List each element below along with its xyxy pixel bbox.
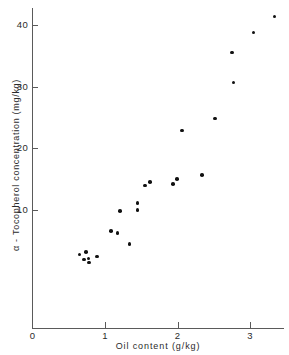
scatter-plot-figure: 10203040 0123 Oil content (g/kg) α - Toc… (0, 0, 289, 355)
data-point (109, 229, 113, 233)
data-point (136, 208, 140, 212)
data-point (171, 182, 175, 186)
data-point (87, 261, 91, 265)
data-point (78, 253, 82, 257)
data-point (116, 231, 120, 235)
data-point (213, 117, 217, 121)
data-point (128, 242, 132, 246)
data-point (252, 31, 256, 35)
data-point (95, 255, 99, 259)
data-point (136, 201, 140, 205)
y-axis-title: α - Tocopherol concentration (mg/kg) (11, 45, 21, 285)
data-point (84, 250, 88, 254)
data-point (230, 51, 234, 55)
data-point (82, 258, 86, 262)
data-point (148, 180, 152, 184)
data-point (200, 173, 204, 177)
x-axis-title: Oil content (g/kg) (32, 341, 284, 351)
data-point (175, 177, 179, 181)
data-point (118, 209, 122, 213)
plot-data-area (0, 0, 289, 355)
data-point (143, 184, 147, 188)
data-point (180, 129, 184, 133)
data-point (87, 257, 91, 261)
data-point (232, 81, 236, 85)
data-point (273, 15, 277, 19)
